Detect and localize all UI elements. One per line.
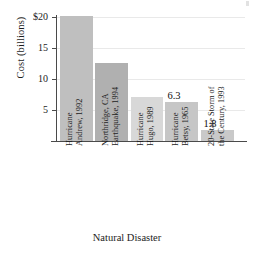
category-line-1: Hurricane bbox=[65, 60, 75, 146]
category-line-2: Betsy, 1965 bbox=[181, 60, 191, 146]
x-axis-title: Natural Disaster bbox=[0, 232, 254, 243]
category-label-hurricane-betsy: Hurricane Betsy, 1965 bbox=[171, 60, 190, 146]
category-line-2: Hugo, 1989 bbox=[146, 60, 156, 146]
category-label-hurricane-hugo: Hurricane Hugo, 1989 bbox=[136, 60, 155, 146]
y-tick-label-15: 15 bbox=[8, 43, 48, 53]
category-line-1: Hurricane bbox=[136, 60, 146, 146]
category-line-1: Hurricane bbox=[171, 60, 181, 146]
category-line-2: the Century, 1993 bbox=[217, 60, 227, 146]
category-label-20state-storm: 20-State Storm of the Century, 1993 bbox=[207, 60, 226, 146]
category-label-northridge-earthquake: Northridge, CA Earthquake, 1994 bbox=[101, 60, 120, 146]
y-tick-label-5: 5 bbox=[8, 105, 48, 115]
y-tick-label-20: $20 bbox=[8, 12, 48, 22]
bar-chart-figure: Cost (billions) $20 15 10 5 6.3 1.8 Hurr… bbox=[0, 0, 254, 253]
category-line-1: Northridge, CA bbox=[101, 60, 111, 146]
y-tick-label-10: 10 bbox=[8, 74, 48, 84]
category-line-2: Earthquake, 1994 bbox=[111, 60, 121, 146]
category-line-1: 20-State Storm of bbox=[207, 60, 217, 146]
category-line-2: Andrew, 1992 bbox=[75, 60, 85, 146]
category-label-hurricane-andrew: Hurricane Andrew, 1992 bbox=[65, 60, 84, 146]
corner-artifact-mark bbox=[246, 1, 249, 6]
